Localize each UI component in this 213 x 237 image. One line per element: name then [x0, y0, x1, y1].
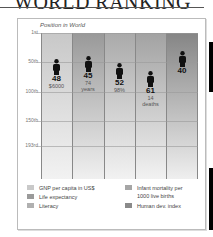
- edge-bar-bottom: [209, 168, 213, 230]
- legend-item-infant-mortality: Infant mortality per: [125, 184, 183, 191]
- legend-item-life-expectancy: Life expectancy: [27, 193, 77, 200]
- marker-hdi: 40: [166, 51, 198, 75]
- stat-value: $6000: [41, 83, 72, 89]
- column-life-expectancy: [72, 33, 104, 179]
- marker-infant-mortality: 61 14 deaths: [135, 71, 166, 107]
- stat-value: 98%: [104, 87, 135, 93]
- stat-unit: deaths: [135, 101, 166, 107]
- swatch-literacy: [27, 203, 34, 208]
- swatch-hdi: [125, 203, 132, 208]
- gridline-150th: [36, 121, 198, 122]
- swatch-life-expectancy: [27, 194, 34, 199]
- person-icon: [84, 56, 93, 72]
- swatch-infant-mortality: [125, 185, 132, 190]
- legend-item-literacy: Literacy: [27, 202, 58, 209]
- tick-100th: 100th: [16, 88, 38, 94]
- marker-literacy: 52 98%: [104, 63, 135, 93]
- rank-value: 48: [41, 75, 72, 83]
- tick-193rd: 193rd: [16, 142, 38, 148]
- rank-value: 52: [104, 79, 135, 87]
- rank-value: 40: [166, 67, 198, 75]
- chart-title: Position in World: [40, 22, 85, 28]
- legend-item-infant-mortality-line2: 1000 live births: [137, 192, 174, 199]
- gridline-193rd: [36, 146, 198, 147]
- person-icon: [115, 63, 124, 79]
- rank-value: 45: [72, 72, 104, 80]
- person-icon: [178, 51, 187, 67]
- legend-item-gnp: GNP per capita in US$: [27, 184, 95, 191]
- edge-bar-top: [209, 42, 213, 92]
- swatch-gnp: [27, 185, 34, 190]
- plot-area: 48 $6000 45 74 years 52 98% 61 14 deaths…: [41, 33, 198, 179]
- tick-50th: 50th: [16, 58, 38, 64]
- column-gnp: [41, 33, 72, 179]
- marker-life-expectancy: 45 74 years: [72, 56, 104, 92]
- marker-gnp: 48 $6000: [41, 59, 72, 89]
- rank-value: 61: [135, 87, 166, 95]
- gridline-1st: [36, 33, 198, 34]
- stat-unit: years: [72, 86, 104, 92]
- tick-150th: 150th: [16, 117, 38, 123]
- person-icon: [52, 59, 61, 75]
- title-rule: [0, 7, 204, 8]
- column-literacy: [104, 33, 135, 179]
- tick-1st: 1st: [16, 29, 38, 35]
- person-icon: [146, 71, 155, 87]
- legend-item-hdi: Human dev. index: [125, 202, 181, 209]
